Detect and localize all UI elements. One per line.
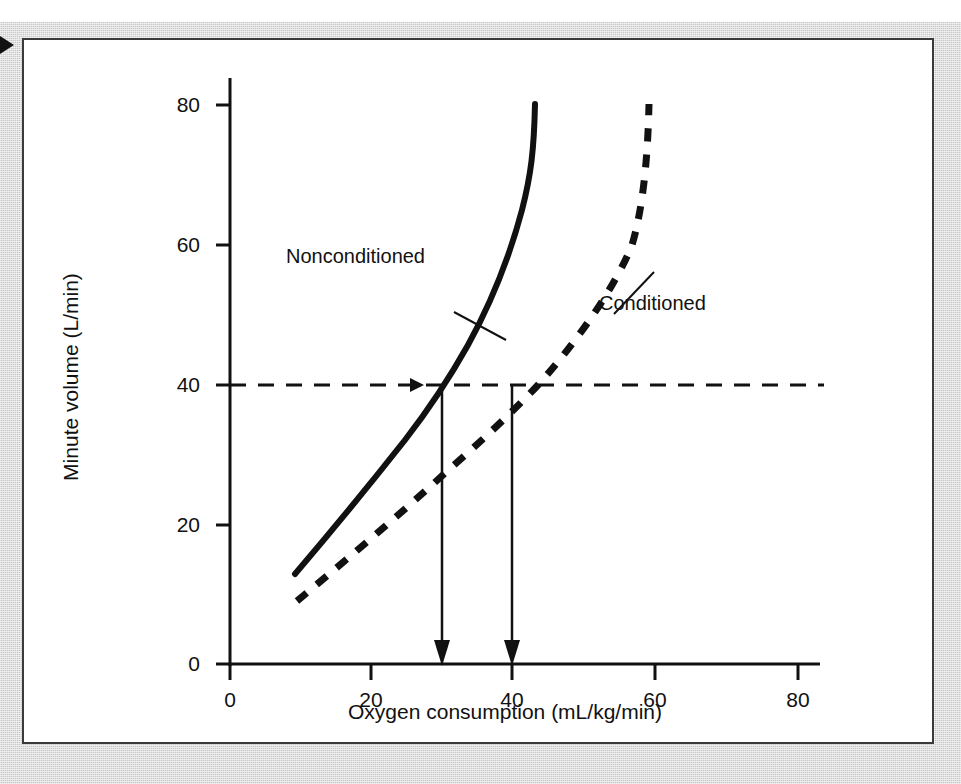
y-tick-label-40: 40 (154, 373, 200, 397)
y-tick-label-0: 0 (154, 652, 200, 676)
reference-line-arrowhead (410, 378, 424, 392)
series-nonconditioned-curve (295, 104, 535, 574)
figure-panel: 80 60 40 20 0 0 20 40 60 80 Minute volum… (22, 38, 934, 744)
chart-plot-area: 80 60 40 20 0 0 20 40 60 80 Minute volum… (24, 40, 936, 746)
y-tick-label-60: 60 (154, 233, 200, 257)
y-axis-title: Minute volume (L/min) (59, 227, 83, 527)
series-label-conditioned: Conditioned (599, 292, 706, 315)
y-tick-label-20: 20 (154, 513, 200, 537)
figure-root: 80 60 40 20 0 0 20 40 60 80 Minute volum… (0, 0, 961, 784)
x-axis-title: Oxygen consumption (mL/kg/min) (180, 700, 830, 724)
y-tick-label-80: 80 (154, 93, 200, 117)
drop-arrowhead-conditioned (504, 640, 520, 666)
left-pointer-triangle-icon (0, 36, 14, 54)
series-label-nonconditioned: Nonconditioned (286, 245, 425, 268)
series-conditioned-curve (297, 104, 649, 601)
drop-arrowhead-nonconditioned (434, 640, 450, 666)
page-top-white-strip (0, 0, 961, 24)
